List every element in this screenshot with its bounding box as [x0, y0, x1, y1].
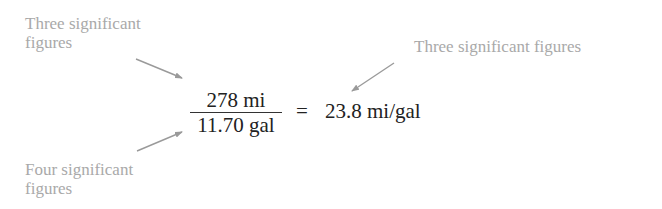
arrow-to-numerator-icon: [136, 59, 182, 78]
numerator: 278 mi: [189, 89, 283, 112]
arrow-to-denominator-icon: [137, 132, 182, 151]
significant-figures-diagram: Three significant figures Four significa…: [0, 0, 662, 209]
arrow-to-result-icon: [352, 63, 394, 91]
fraction: 278 mi 11.70 gal: [189, 89, 283, 137]
denominator: 11.70 gal: [189, 113, 283, 137]
equals-sign: =: [296, 99, 308, 123]
result-value: 23.8 mi/gal: [325, 99, 421, 123]
